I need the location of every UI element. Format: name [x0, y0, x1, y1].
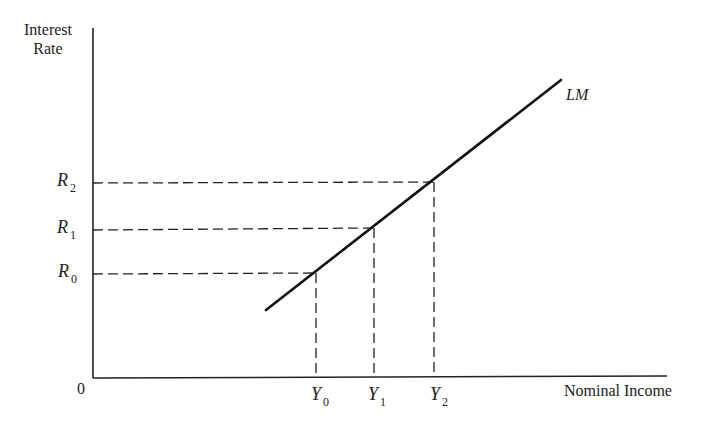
- lm-curve-label: LM: [566, 86, 588, 104]
- r2-guide: [93, 182, 434, 183]
- y2-subscript: 2: [442, 395, 448, 409]
- r1-subscript: 1: [70, 228, 76, 242]
- lm-curve: [266, 80, 561, 310]
- r2-subscript: 2: [70, 181, 76, 195]
- r2-letter: R: [57, 170, 68, 190]
- r0-letter: R: [58, 261, 69, 281]
- x-axis-title: Nominal Income: [564, 382, 672, 400]
- lm-curve-diagram: Interest Rate R2 R1 R0 0 Y0 Y1 Y2 Nomina…: [0, 0, 728, 429]
- r1-label: R1: [57, 217, 76, 238]
- r2-label: R2: [57, 170, 76, 191]
- r0-label: R0: [58, 261, 77, 282]
- origin-label: 0: [77, 380, 85, 398]
- r1-guide: [93, 228, 374, 230]
- y1-subscript: 1: [380, 395, 386, 409]
- y0-subscript: 0: [323, 395, 329, 409]
- r1-letter: R: [57, 217, 68, 237]
- y0-label: Y0: [311, 384, 329, 405]
- r0-guide: [93, 273, 316, 274]
- y2-label: Y2: [430, 384, 448, 405]
- y-axis-title: Interest Rate: [14, 20, 82, 58]
- y0-letter: Y: [311, 384, 321, 404]
- x-axis: [93, 376, 667, 378]
- y-axis-title-line1: Interest: [14, 20, 82, 39]
- r0-subscript: 0: [71, 272, 77, 286]
- y-axis-title-line2: Rate: [14, 39, 82, 58]
- diagram-canvas: [0, 0, 728, 429]
- y1-letter: Y: [368, 384, 378, 404]
- y2-letter: Y: [430, 384, 440, 404]
- y1-label: Y1: [368, 384, 386, 405]
